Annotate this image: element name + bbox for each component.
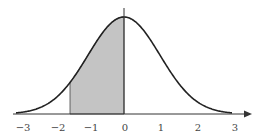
normal-distribution-chart: −3 −2 −1 0 1 2 3 (0, 0, 264, 139)
axis-arrow-icon (244, 111, 252, 118)
tick-label: −2 (51, 122, 66, 133)
tick-label: 1 (158, 122, 164, 133)
tick-label: −1 (84, 122, 99, 133)
x-tick-labels: −3 −2 −1 0 1 2 3 (16, 122, 239, 133)
tick-label: −3 (16, 122, 31, 133)
tick-label: 2 (195, 122, 201, 133)
tick-label: 3 (232, 122, 238, 133)
shaded-area (70, 17, 124, 114)
tick-label: 0 (122, 122, 128, 133)
